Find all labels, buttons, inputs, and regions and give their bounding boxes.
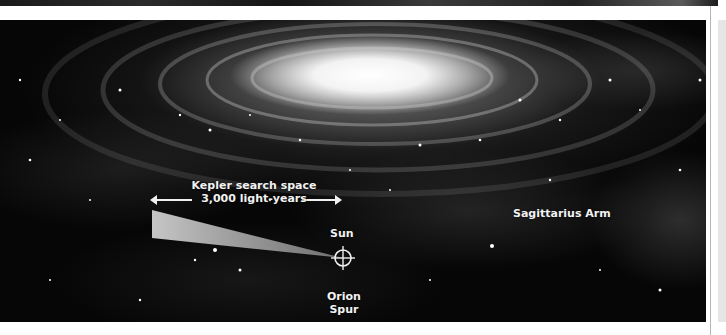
milky-way-illustration: Kepler search space 3,000 light-years Su…	[0, 20, 706, 322]
kepler-search-cone	[0, 20, 706, 322]
kepler-label-line2: 3,000 light-years	[174, 192, 334, 205]
sun-label: Sun	[330, 227, 354, 240]
side-panel	[718, 20, 726, 322]
orion-label-line1: Orion	[327, 290, 361, 303]
orion-spur-label: Orion Spur	[327, 290, 361, 316]
orion-label-line2: Spur	[327, 303, 361, 316]
sagittarius-arm-label: Sagittarius Arm	[513, 207, 611, 220]
crosshair-icon	[331, 246, 355, 270]
page-divider	[710, 6, 711, 335]
previous-image-edge	[0, 0, 718, 6]
kepler-label-line1: Kepler search space	[174, 179, 334, 192]
kepler-search-space-label: Kepler search space 3,000 light-years	[174, 179, 334, 205]
